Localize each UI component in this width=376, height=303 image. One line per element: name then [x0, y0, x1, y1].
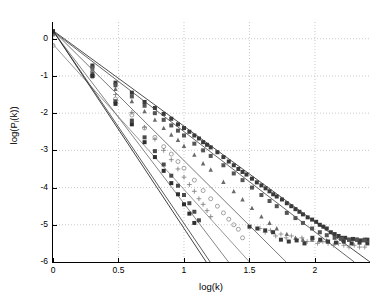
y-tick-label: -6: [26, 257, 48, 266]
y-tick: [53, 150, 57, 151]
series-series-1-square-dark: [53, 29, 369, 242]
fit-line-series-6-square-steep: [53, 31, 210, 262]
y-tick: [53, 188, 57, 189]
figure-canvas: 0-1-2-3-4-5-600.511.52 log(k) log(Pi(k)): [0, 0, 376, 303]
y-tick: [53, 76, 57, 77]
fit-line-series-2-square-mid: [53, 31, 354, 262]
y-tick-label: -4: [26, 183, 48, 192]
fit-line-series-4-circle-open: [53, 44, 249, 262]
y-tick: [53, 225, 57, 226]
y-tick: [53, 39, 57, 40]
x-tick: [249, 258, 250, 262]
series-series-2-square-mid: [53, 31, 367, 242]
y-axis-label-main: log(P: [8, 122, 19, 144]
y-axis-label: log(Pi(k)): [8, 89, 21, 161]
y-tick: [53, 262, 57, 263]
fit-line-series-5-plus: [53, 31, 229, 262]
y-axis-label-tail: (k)): [8, 106, 19, 120]
y-axis-label-subscript: i: [13, 121, 20, 123]
y-tick-label: -5: [26, 220, 48, 229]
x-tick-label: 0.5: [103, 266, 133, 275]
x-tick-label: 1.5: [234, 266, 264, 275]
y-tick-label: -1: [26, 71, 48, 80]
plot-svg: [53, 22, 370, 262]
series-series-7-square-steepest: [53, 29, 196, 225]
x-tick: [53, 258, 54, 262]
x-tick: [184, 258, 185, 262]
y-tick-label: -3: [26, 145, 48, 154]
y-tick-label: 0: [26, 34, 48, 43]
y-tick: [53, 113, 57, 114]
x-tick: [315, 258, 316, 262]
x-tick: [118, 258, 119, 262]
y-axis-line: [52, 22, 53, 263]
x-axis-label: log(k): [151, 281, 271, 292]
x-axis-line: [52, 262, 370, 263]
y-tick-label: -2: [26, 108, 48, 117]
x-tick-label: 2: [300, 266, 330, 275]
x-tick-label: 1: [169, 266, 199, 275]
plot-area: [53, 22, 370, 262]
x-tick-label: 0: [38, 266, 68, 275]
